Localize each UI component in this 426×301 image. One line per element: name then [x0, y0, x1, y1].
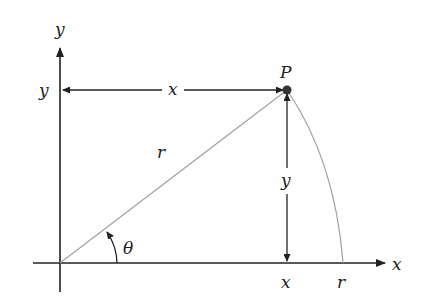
point-p: [283, 86, 292, 95]
angle-label: θ: [123, 238, 133, 258]
x-axis-label: x: [392, 254, 402, 274]
y-tick-label: y: [38, 80, 49, 100]
radius-arc: [287, 90, 343, 263]
radius-line: [60, 90, 287, 263]
angle-arc: [107, 232, 117, 263]
horizontal-x-label: x: [168, 79, 178, 99]
polar-coordinates-diagram: y x P x y y x r r θ: [0, 0, 426, 301]
r-tick-label: r: [337, 272, 346, 292]
radius-label: r: [157, 142, 166, 162]
y-axis-label: y: [54, 19, 65, 39]
vertical-y-label: y: [280, 170, 291, 190]
x-tick-label: x: [281, 272, 291, 292]
point-label: P: [279, 62, 292, 82]
